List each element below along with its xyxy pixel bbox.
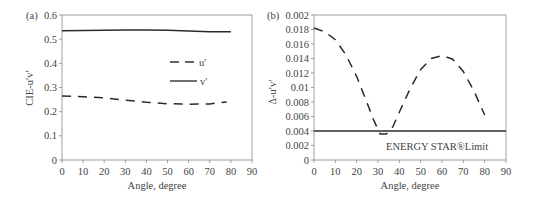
x-axis-label-a: Angle, degree [128, 180, 187, 191]
x-tick-label: 60 [183, 166, 194, 177]
chart-panel-a: (a) 00.10.20.30.40.50.6 0102030405060708… [0, 0, 267, 204]
x-axis-label-b: Angle, degree [381, 180, 440, 191]
y-tick-label: 0.6 [44, 10, 57, 21]
y-tick-label: 0.018 [285, 24, 309, 35]
y-tick-label: 0 [304, 155, 309, 166]
legend-u-label: u′ [199, 57, 207, 68]
y-tick-label: 0.014 [285, 53, 309, 64]
panel-a-tag: (a) [26, 10, 38, 22]
y-tick-label: 0.004 [285, 126, 309, 137]
y-axis-b: 00.0020.0040.0060.0080.010.0120.0140.016… [285, 10, 314, 166]
series-line [314, 28, 485, 134]
x-axis-a: 0102030405060708090 [59, 160, 257, 177]
x-tick-label: 20 [351, 166, 362, 177]
y-tick-label: 0.5 [44, 34, 57, 45]
plot-area-b [314, 15, 506, 160]
chart-b-canvas: (b) 00.0020.0040.0060.0080.010.0120.0140… [264, 0, 534, 204]
x-tick-label: 50 [415, 166, 426, 177]
x-tick-label: 0 [59, 166, 64, 177]
y-tick-label: 0.1 [44, 130, 57, 141]
y-tick-label: 0 [52, 155, 57, 166]
x-tick-label: 70 [458, 166, 469, 177]
y-axis-a: 00.10.20.30.40.50.6 [44, 10, 62, 166]
x-tick-label: 90 [247, 166, 258, 177]
x-tick-label: 80 [226, 166, 237, 177]
x-tick-label: 20 [99, 166, 110, 177]
series-line [62, 96, 227, 104]
x-tick-label: 90 [501, 166, 512, 177]
y-tick-label: 0.01 [291, 82, 309, 93]
y-tick-label: 0.2 [44, 106, 57, 117]
x-tick-label: 50 [162, 166, 173, 177]
x-tick-label: 0 [311, 166, 316, 177]
y-axis-label-b: Δ-u′v′ [267, 79, 278, 104]
x-tick-label: 10 [330, 166, 341, 177]
chart-a-canvas: (a) 00.10.20.30.40.50.6 0102030405060708… [0, 0, 267, 204]
plot-area-a [62, 15, 252, 160]
x-tick-label: 30 [373, 166, 384, 177]
y-tick-label: 0.006 [285, 111, 309, 122]
x-tick-label: 10 [78, 166, 89, 177]
x-tick-label: 40 [394, 166, 405, 177]
y-tick-label: 0.4 [44, 58, 58, 69]
y-axis-label-a: CIE-u′v′ [24, 70, 35, 106]
panel-b-tag: (b) [267, 10, 280, 22]
series-line [62, 30, 231, 32]
y-tick-label: 0.002 [285, 10, 309, 21]
y-tick-label: 0.012 [285, 68, 309, 79]
x-tick-label: 30 [120, 166, 131, 177]
x-tick-label: 70 [205, 166, 216, 177]
y-tick-label: 0.3 [44, 82, 57, 93]
x-tick-label: 80 [479, 166, 490, 177]
energy-star-limit-label: ENERGY STAR®Limit [386, 141, 488, 152]
x-axis-b: 0102030405060708090 [311, 160, 511, 177]
x-tick-label: 40 [141, 166, 152, 177]
y-tick-label: 0.008 [285, 97, 309, 108]
y-tick-label: 0.002 [285, 140, 309, 151]
x-tick-label: 60 [437, 166, 448, 177]
series-b [314, 28, 506, 134]
legend-a: u′ v′ [170, 57, 208, 87]
legend-v-label: v′ [200, 76, 208, 87]
y-tick-label: 0.016 [285, 39, 309, 50]
chart-panel-b: (b) 00.0020.0040.0060.0080.010.0120.0140… [264, 0, 534, 204]
